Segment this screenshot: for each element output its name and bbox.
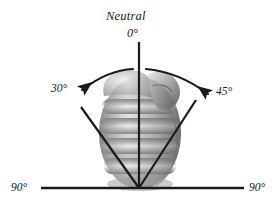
right-deviation-degree-label: 45°: [216, 86, 232, 98]
baseline-right-degree-label: 90°: [249, 182, 265, 194]
neutral-degree-label: 0°: [127, 27, 138, 39]
diagram-canvas: [0, 0, 280, 210]
baseline-left-degree-label: 90°: [11, 182, 27, 194]
left-deviation-degree-label: 30°: [51, 83, 67, 95]
figure-panel-b: Neutral 0° 30° 45° 90° 90°: [0, 0, 280, 210]
neutral-position-label: Neutral: [106, 10, 146, 23]
